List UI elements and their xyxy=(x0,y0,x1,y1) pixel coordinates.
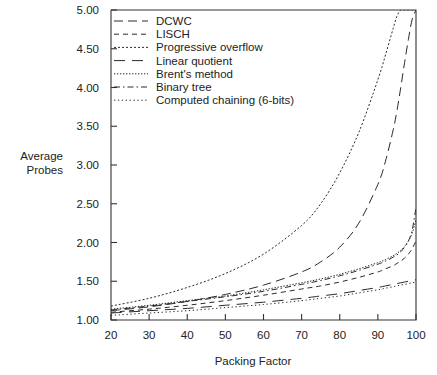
x-tick-label: 50 xyxy=(219,329,232,341)
x-axis-title: Packing Factor xyxy=(215,355,292,367)
legend-label-brent-s-method: Brent's method xyxy=(156,68,233,80)
y-tick-label: 1.50 xyxy=(77,275,99,287)
x-tick-label: 90 xyxy=(371,329,384,341)
y-tick-label: 1.00 xyxy=(77,314,99,326)
y-tick-label: 4.50 xyxy=(77,43,99,55)
y-axis-title-line1: Average xyxy=(20,150,63,162)
x-tick-label: 80 xyxy=(333,329,346,341)
y-tick-label: 3.50 xyxy=(77,120,99,132)
legend-label-computed-chaining-6-bits: Computed chaining (6-bits) xyxy=(156,94,294,106)
x-tick-label: 100 xyxy=(406,329,425,341)
chart-figure: 1.001.502.002.503.003.504.004.505.00 203… xyxy=(0,0,437,375)
x-tick-label: 70 xyxy=(295,329,308,341)
x-tick-label: 40 xyxy=(181,329,194,341)
y-tick-label: 5.00 xyxy=(77,4,99,16)
legend-label-progressive-overflow: Progressive overflow xyxy=(156,41,263,53)
x-tick-label: 30 xyxy=(143,329,156,341)
x-tick-label: 60 xyxy=(257,329,270,341)
x-axis-tick-labels: 2030405060708090100 xyxy=(105,329,426,341)
legend-label-binary-tree: Binary tree xyxy=(156,81,212,93)
legend-label-dcwc: DCWC xyxy=(156,15,192,27)
y-tick-label: 2.00 xyxy=(77,237,99,249)
y-tick-label: 4.00 xyxy=(77,82,99,94)
y-axis-tick-labels: 1.001.502.002.503.003.504.004.505.00 xyxy=(77,4,99,326)
y-tick-label: 3.00 xyxy=(77,159,99,171)
legend-label-linear-quotient: Linear quotient xyxy=(156,55,233,67)
chart-svg: 1.001.502.002.503.003.504.004.505.00 203… xyxy=(0,0,437,375)
legend-label-lisch: LISCH xyxy=(156,28,190,40)
y-axis-title-line2: Probes xyxy=(27,164,64,176)
y-tick-label: 2.50 xyxy=(77,198,99,210)
x-tick-label: 20 xyxy=(105,329,118,341)
